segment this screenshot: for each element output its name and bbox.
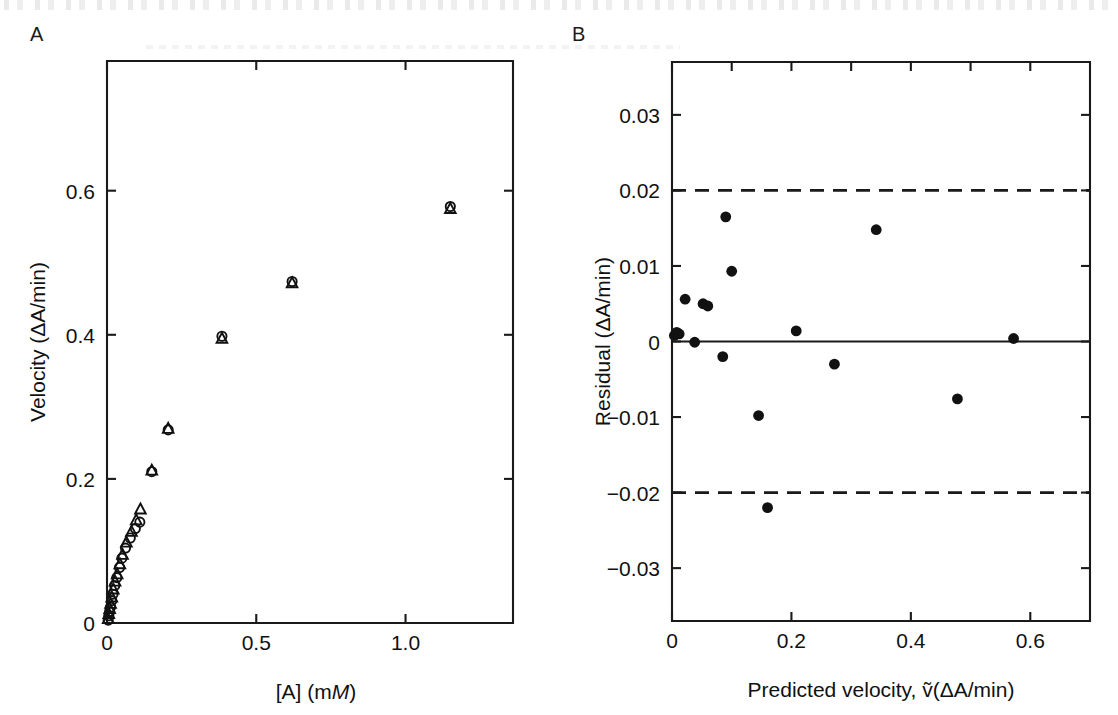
panel-b-ytick-label: −0.02 — [607, 482, 660, 505]
panel-b-ytick-label: 0.02 — [619, 179, 660, 202]
panel-a-saturation-plot: 00.51.000.20.40.6 [A] (mM)Velocity (ΔA/m… — [0, 0, 559, 715]
figure-container: A B 00.51.000.20.40.6 [A] (mM)Velocity (… — [0, 0, 1118, 715]
panel-a-xtick-label: 1.0 — [391, 631, 420, 654]
panel-b-residual-marker — [720, 211, 731, 222]
panel-b-residual-marker — [762, 502, 773, 513]
panel-b-residual-marker — [791, 326, 802, 337]
panel-b-residual-marker — [717, 351, 728, 362]
panel-b-xtick-label: 0.2 — [777, 629, 806, 652]
panel-a-ticks — [107, 61, 513, 623]
panel-a-xtick-label: 0.5 — [242, 631, 271, 654]
panel-b-reference-lines — [672, 190, 1090, 492]
panel-b-ytick-label: −0.01 — [607, 406, 660, 429]
panel-a-xtick-label: 0 — [101, 631, 113, 654]
panel-b-residual-plot: 00.20.40.60.030.020.010−0.01−0.02−0.03 P… — [559, 0, 1118, 715]
panel-a-ytick-label: 0.2 — [66, 468, 95, 491]
panel-a-xaxis-title: [A] (mM) — [276, 680, 357, 703]
panel-b-residual-marker — [871, 224, 882, 235]
panel-a-ytick-label: 0 — [83, 612, 95, 635]
panel-b-residual-marker — [829, 359, 840, 370]
panel-b-residual-marker — [753, 410, 764, 421]
panel-a-triangle-marker — [135, 504, 146, 514]
panel-b-ytick-label: 0 — [648, 331, 660, 354]
panel-b-ytick-label: −0.03 — [607, 557, 660, 580]
panel-b-ytick-label: 0.01 — [619, 255, 660, 278]
panel-b-residual-marker — [726, 266, 737, 277]
panel-a-data-points — [103, 202, 456, 625]
panel-b-ytick-label: 0.03 — [619, 104, 660, 127]
panel-b-xtick-label: 0.6 — [1016, 629, 1045, 652]
panel-b-residual-marker — [680, 294, 691, 305]
panel-a-yaxis-title: Velocity (ΔA/min) — [26, 262, 49, 422]
panel-b-residual-marker — [702, 301, 713, 312]
panel-b-data-points — [669, 211, 1019, 513]
panel-a-axes-frame — [107, 61, 513, 623]
panel-b-xaxis-title: Predicted velocity, ṽ(ΔA/min) — [748, 678, 1015, 701]
panel-a-frame-rect — [107, 61, 513, 623]
panel-b-residual-marker — [1008, 333, 1019, 344]
panel-b-yaxis-title: Residual (ΔA/min) — [591, 257, 614, 426]
panel-a-triangle-marker — [163, 423, 174, 433]
panel-b-residual-marker — [952, 394, 963, 405]
panel-a-ytick-label: 0.6 — [66, 180, 95, 203]
panel-a-triangle-marker — [146, 465, 157, 475]
panel-b-xtick-label: 0.4 — [896, 629, 926, 652]
panel-b-residual-marker — [689, 337, 700, 348]
panel-a-ytick-label: 0.4 — [66, 324, 96, 347]
panel-b-residual-marker — [674, 329, 685, 340]
panel-b-xtick-label: 0 — [666, 629, 678, 652]
